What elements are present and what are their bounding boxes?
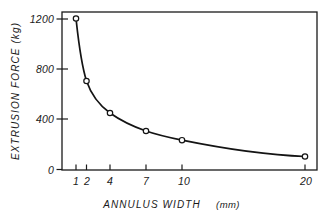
data-point-1 [73,16,78,21]
y-axis-tick-labels: 1200 800 400 0 [30,13,54,176]
y-tick-label-1200: 1200 [30,13,54,25]
y-axis-title: EXTRUSION FORCE (kg) [10,22,21,160]
y-tick-label-0: 0 [48,164,54,176]
data-point-3 [107,110,112,115]
data-point-2 [84,78,89,83]
y-tick-label-800: 800 [36,63,54,75]
x-tick-label-20: 20 [299,175,312,187]
figure-container: 1200 800 400 0 1 2 4 7 10 20 [0,0,328,222]
x-tick-label-2: 2 [83,175,90,187]
x-tick-label-4: 4 [107,175,113,187]
extrusion-force-chart: 1200 800 400 0 1 2 4 7 10 20 [0,0,328,222]
x-tick-label-10: 10 [178,175,190,187]
data-point-6 [302,154,307,159]
x-tick-label-1: 1 [73,175,79,187]
x-tick-label-7: 7 [143,175,150,187]
data-markers [73,16,307,159]
x-axis-tick-labels: 1 2 4 7 10 20 [73,175,312,187]
x-axis-title: ANNULUS WIDTH [102,199,201,210]
y-tick-label-400: 400 [36,113,54,125]
data-point-5 [179,138,184,143]
plot-frame [62,12,317,170]
data-point-4 [143,128,148,133]
x-axis-ticks [76,165,305,171]
x-axis-title-unit: (mm) [216,199,240,210]
data-curve [76,19,305,157]
